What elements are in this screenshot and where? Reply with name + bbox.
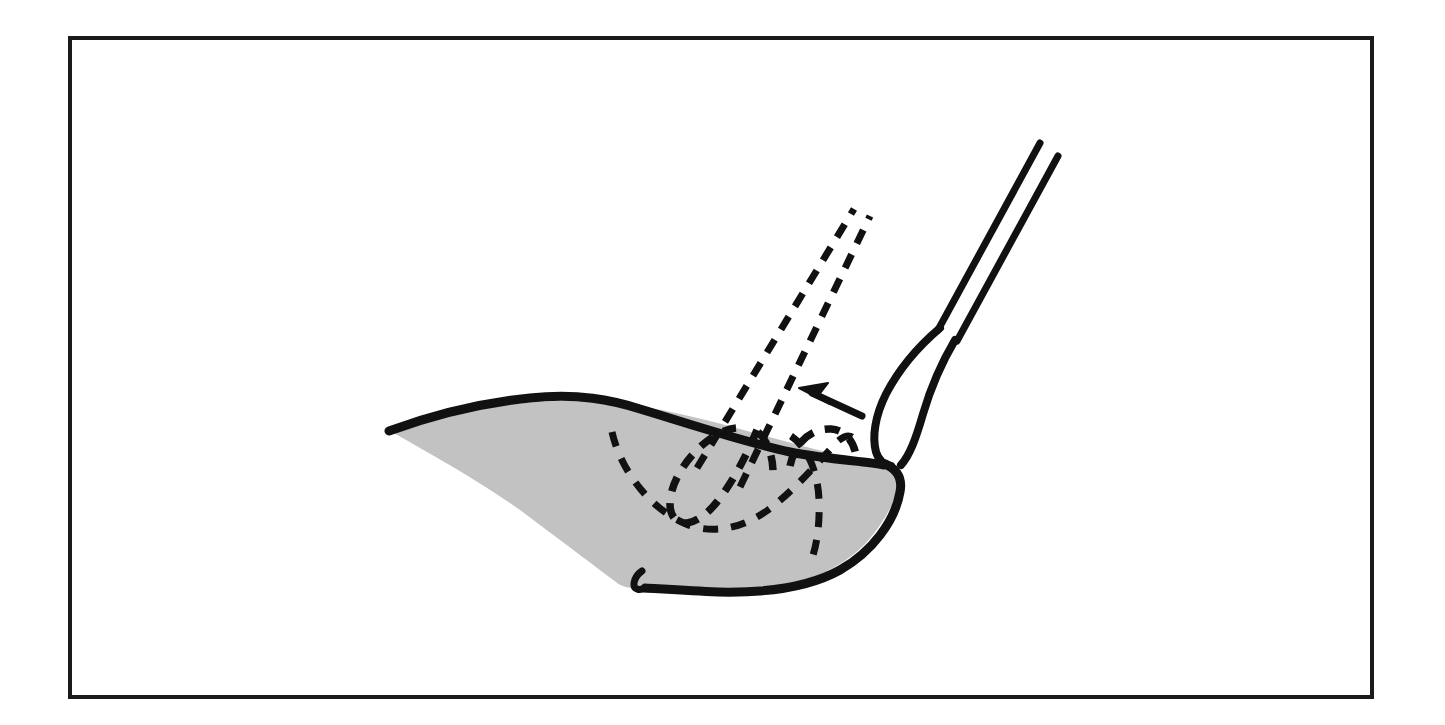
figure-canvas	[0, 0, 1445, 725]
page-background	[0, 0, 1445, 725]
figure-root: Surgical instrument repositioning diagra…	[0, 0, 1445, 725]
